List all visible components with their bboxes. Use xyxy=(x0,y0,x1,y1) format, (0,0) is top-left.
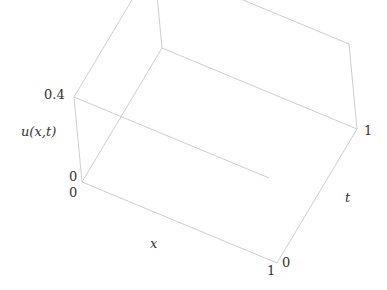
x-axis-label: x xyxy=(150,237,157,250)
z-tick-top: 0.4 xyxy=(44,88,65,101)
z-tick-zero: 0 xyxy=(69,170,77,183)
t-axis-label: t xyxy=(345,191,350,204)
x-tick-one: 1 xyxy=(267,264,275,277)
t-tick-one: 1 xyxy=(364,124,372,137)
x-tick-zero: 0 xyxy=(69,186,77,199)
box-back-edges xyxy=(74,0,357,182)
t-tick-zero: 0 xyxy=(282,256,290,269)
box-front-edges xyxy=(74,44,357,263)
surface-plot xyxy=(0,0,387,290)
z-axis-label: u(x,t) xyxy=(21,125,56,138)
